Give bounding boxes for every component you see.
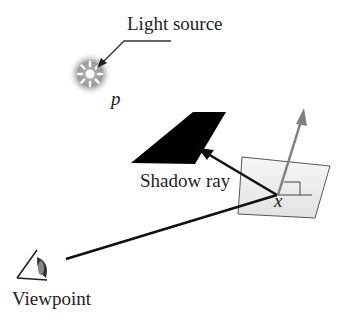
light-source-label: Light source — [127, 13, 223, 35]
eye-icon — [17, 250, 47, 280]
point-p-label: p — [111, 88, 121, 110]
shadow-ray-diagram: Light source p Shadow ray x Viewpoint — [0, 0, 349, 323]
light-source-icon — [68, 52, 112, 96]
surface-patch — [238, 157, 330, 218]
shadow-ray-label: Shadow ray — [140, 170, 230, 192]
point-x-label: x — [274, 190, 282, 212]
diagram-canvas — [0, 0, 349, 323]
view-ray — [66, 195, 277, 259]
viewpoint-label: Viewpoint — [12, 288, 91, 310]
